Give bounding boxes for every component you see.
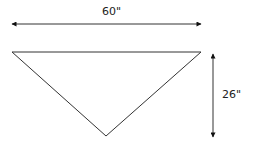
height-label: 26" bbox=[222, 89, 241, 100]
width-label: 60" bbox=[102, 6, 121, 17]
triangle-diagram bbox=[0, 0, 255, 146]
triangle-shape bbox=[12, 52, 201, 136]
